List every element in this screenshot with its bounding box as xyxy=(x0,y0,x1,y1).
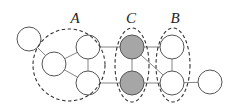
node-b1 xyxy=(160,35,184,59)
node-n9 xyxy=(198,70,222,94)
labels-layer: ACB xyxy=(69,10,179,26)
node-a3 xyxy=(76,71,100,95)
group-C-label: C xyxy=(126,10,137,26)
group-A-label: A xyxy=(69,10,80,26)
node-a2 xyxy=(76,35,100,59)
node-b2 xyxy=(160,71,184,95)
group-B-label: B xyxy=(170,10,179,26)
node-a1 xyxy=(42,52,66,76)
nodes-layer xyxy=(17,27,222,95)
graph-diagram: ACB xyxy=(0,0,235,109)
highlighted-node-c1 xyxy=(120,35,144,59)
highlighted-node-c2 xyxy=(120,71,144,95)
node-n0 xyxy=(17,27,41,51)
